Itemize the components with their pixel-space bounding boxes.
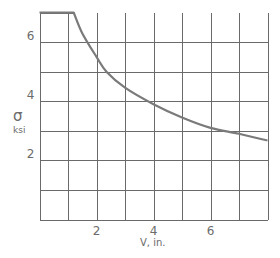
- grid-lines: [40, 13, 269, 221]
- x-tick-label: 4: [150, 224, 158, 238]
- y-tick-labels: 246: [27, 29, 35, 161]
- x-tick-labels: 246: [93, 224, 215, 238]
- y-tick-label: 6: [27, 29, 35, 43]
- y-tick-label: 4: [27, 88, 35, 102]
- x-axis-label: V, in.: [140, 237, 166, 248]
- x-tick-label: 6: [207, 224, 215, 238]
- chart: 246 246 σ ksi V, in.: [0, 0, 280, 258]
- y-axis-units: ksi: [13, 125, 25, 135]
- y-axis-label: σ: [13, 107, 23, 125]
- x-tick-label: 2: [93, 224, 101, 238]
- y-tick-label: 2: [27, 147, 35, 161]
- data-curve: [40, 13, 268, 141]
